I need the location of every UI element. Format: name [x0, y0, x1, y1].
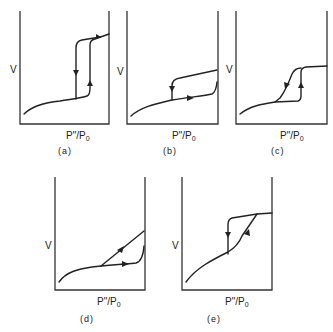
panel-c-arrow-down [284, 82, 290, 89]
panel-c: V P"/P0 (c) [226, 11, 327, 156]
panel-a-y-label: V [10, 64, 17, 75]
panel-a-desorption-branch [76, 37, 100, 99]
panel-a: V P"/P0 (a) [10, 11, 109, 156]
panel-c-adsorption-branch [240, 66, 327, 114]
panel-b: V P"/P0 (b) [117, 11, 218, 156]
panel-c-y-label: V [226, 64, 233, 75]
panel-b-arrow-right [187, 95, 194, 101]
panel-e-x-label: P"/P0 [225, 296, 249, 308]
panel-a-x-label: P"/P0 [66, 130, 90, 142]
panel-a-arrow-up [87, 80, 93, 86]
panel-b-arrow-down [169, 86, 175, 92]
isotherm-figure: V P"/P0 (a) V P"/P0 (b) V P"/P0 (c) V [0, 0, 333, 332]
panel-c-arrow-up [298, 82, 304, 88]
panel-e-arrow-down [225, 232, 231, 238]
panel-b-caption: (b) [163, 146, 177, 156]
panel-a-caption: (a) [58, 146, 72, 156]
panel-c-frame [236, 11, 327, 124]
panel-d-caption: (d) [80, 314, 94, 324]
panel-b-x-label: P"/P0 [172, 130, 196, 142]
panel-e: V P"/P0 (e) [172, 177, 272, 324]
panel-d-adsorption-branch [59, 246, 144, 282]
panel-e-y-label: V [172, 240, 179, 251]
panel-b-y-label: V [117, 66, 124, 77]
panel-e-caption: (e) [207, 314, 221, 324]
panel-a-adsorption-branch [24, 34, 109, 114]
panel-a-arrow-down [73, 70, 79, 76]
panel-e-adsorption-branch [186, 213, 272, 282]
panel-b-frame [127, 11, 218, 124]
panel-c-x-label: P"/P0 [280, 130, 304, 142]
panel-d-arrow-right [122, 261, 129, 267]
panel-c-caption: (c) [271, 146, 285, 156]
panel-d-x-label: P"/P0 [97, 296, 121, 308]
panel-d-y-label: V [45, 240, 52, 251]
panel-b-desorption-branch [172, 70, 217, 100]
panel-d: V P"/P0 (d) [45, 177, 145, 324]
